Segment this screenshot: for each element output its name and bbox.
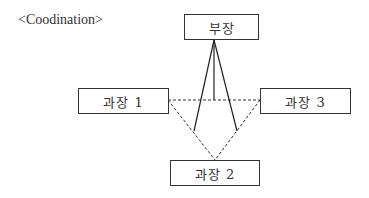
node-section-chief-2: 과장 2 — [170, 160, 260, 186]
node-section-chief-2-label: 과장 2 — [195, 164, 235, 183]
dashed-edge-1-2 — [168, 100, 215, 160]
node-section-chief-1-label: 과장 1 — [103, 92, 143, 111]
node-manager: 부장 — [184, 14, 259, 40]
solid-edge-manager-left — [194, 40, 214, 131]
dashed-edge-3-2 — [215, 100, 260, 160]
solid-edge-manager-right — [214, 40, 237, 131]
node-section-chief-3-label: 과장 3 — [285, 92, 325, 111]
node-section-chief-1: 과장 1 — [78, 88, 169, 114]
node-manager-label: 부장 — [209, 18, 235, 37]
node-section-chief-3: 과장 3 — [260, 88, 351, 114]
